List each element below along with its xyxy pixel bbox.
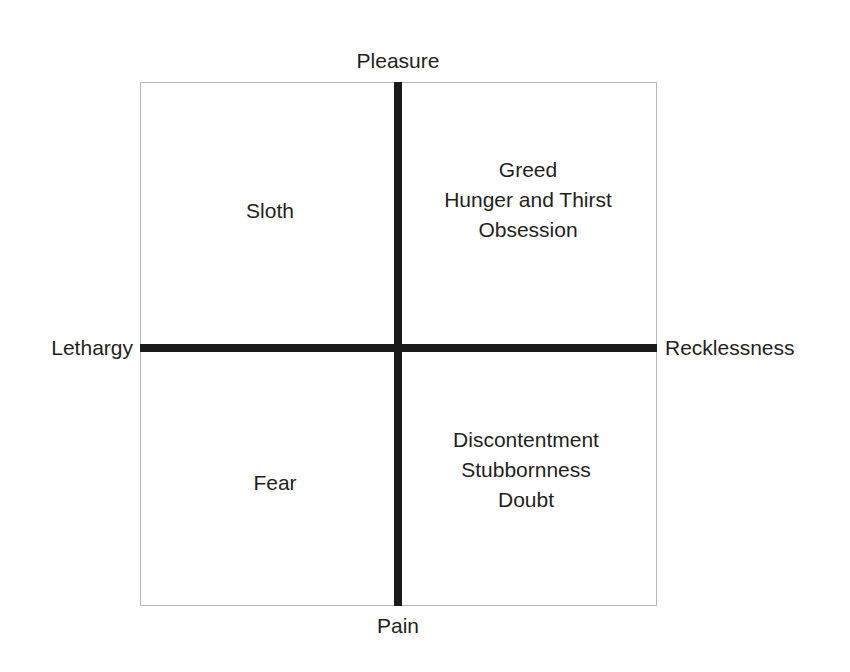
quadrant-item: Obsession xyxy=(412,215,644,245)
quadrant-bottom-left: Fear xyxy=(165,468,385,498)
quadrant-top-right: Greed Hunger and Thirst Obsession xyxy=(412,155,644,245)
quadrant-item: Greed xyxy=(412,155,644,185)
quadrant-bottom-right: Discontentment Stubbornness Doubt xyxy=(410,425,642,515)
axis-label-pain: Pain xyxy=(0,613,796,638)
horizontal-axis-line xyxy=(140,344,657,352)
quadrant-diagram: Pleasure Pain Lethargy Recklessness Slot… xyxy=(0,0,850,672)
axis-label-pleasure: Pleasure xyxy=(0,48,796,73)
quadrant-item: Fear xyxy=(165,468,385,498)
axis-label-lethargy: Lethargy xyxy=(51,335,133,360)
axis-label-recklessness: Recklessness xyxy=(665,335,795,360)
quadrant-top-left: Sloth xyxy=(160,196,380,226)
quadrant-item: Hunger and Thirst xyxy=(412,185,644,215)
quadrant-item: Discontentment xyxy=(410,425,642,455)
quadrant-item: Doubt xyxy=(410,485,642,515)
quadrant-item: Stubbornness xyxy=(410,455,642,485)
quadrant-item: Sloth xyxy=(160,196,380,226)
